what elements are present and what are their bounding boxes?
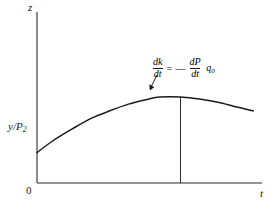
y-axis-label: z [28,2,32,13]
q-subscript: 0 [211,67,215,75]
fraction-dP-denominator: dt [190,68,200,80]
fraction-dP-numerator: dP [189,57,202,68]
equals-sign: = [166,63,173,74]
plot-canvas [0,0,275,205]
fraction-dP-dt: dP dt [189,57,202,79]
y-intercept-label-subscript: 2 [23,125,27,134]
minus-sign: — [175,63,186,74]
q-zero-term: q0 [204,62,215,75]
curve-z-of-t [37,97,253,153]
figure-container: z t 0 y/P2 dk dt = — dP dt q0 [0,0,275,205]
fraction-dk-denominator: dt [153,68,163,80]
y-intercept-label: y/P2 [8,121,26,134]
origin-label: 0 [26,185,32,196]
fraction-dk-dt: dk dt [152,57,163,79]
fraction-dk-numerator: dk [152,57,163,68]
x-axis-label: t [260,188,263,199]
y-intercept-label-main: y/P [8,120,23,132]
equation-annotation: dk dt = — dP dt q0 [152,57,215,79]
